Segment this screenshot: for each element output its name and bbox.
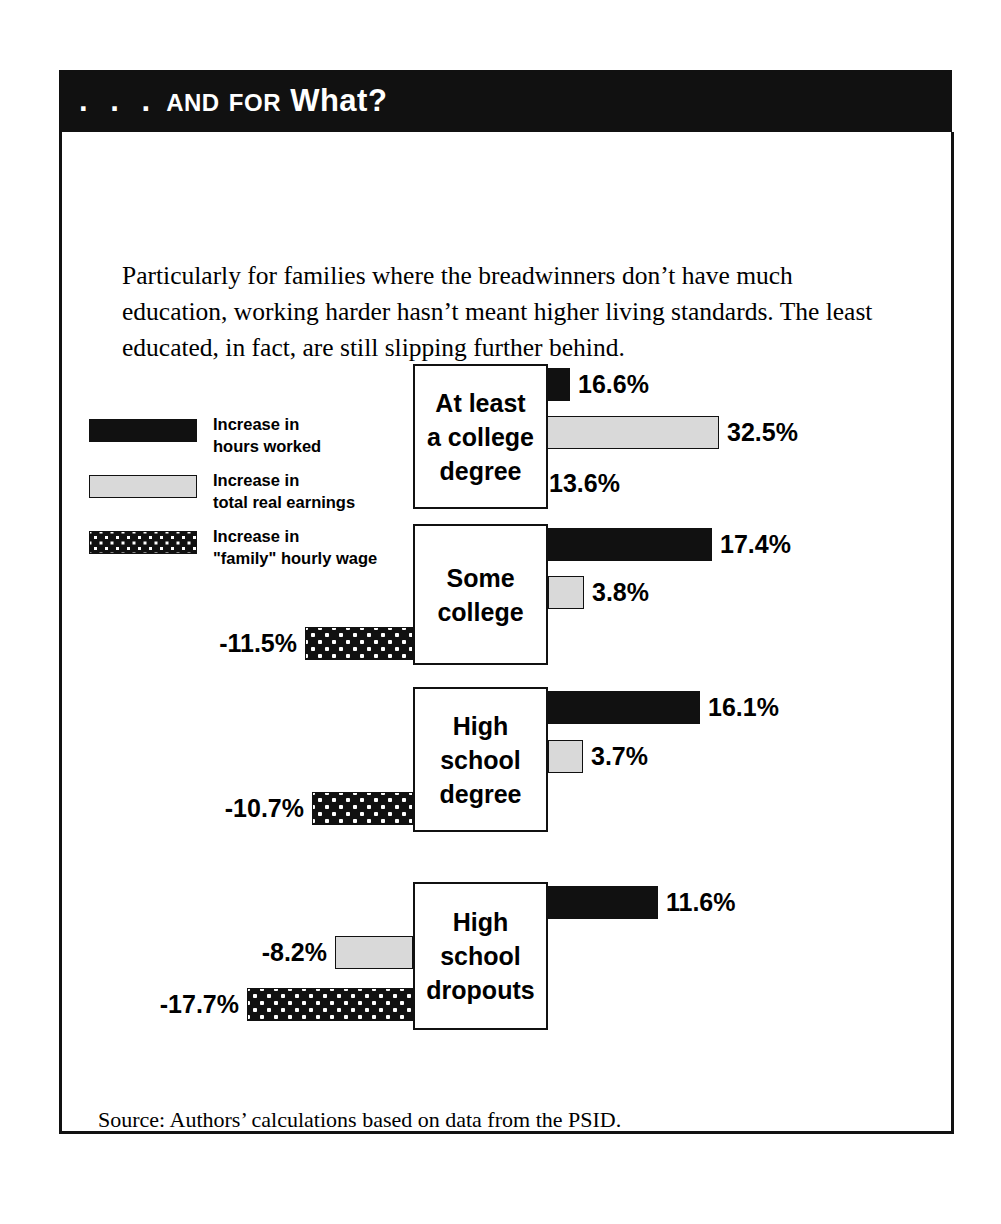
bar-value-earnings: 32.5% xyxy=(727,416,798,449)
figure-panel: . . . AND FOR What? Particularly for fam… xyxy=(59,70,952,1135)
bar-value-hours: 16.1% xyxy=(708,691,779,724)
bar-value-hours: 11.6% xyxy=(666,886,736,919)
title-what: What? xyxy=(290,83,387,118)
bar-earnings xyxy=(335,936,413,969)
bar-wage xyxy=(312,792,413,825)
bar-earnings xyxy=(548,576,584,609)
bar-earnings xyxy=(548,740,583,773)
bar-value-earnings: 3.8% xyxy=(592,576,649,609)
bar-chart: Increase in hours worked Increase in tot… xyxy=(62,132,951,1131)
bar-hours xyxy=(548,528,712,561)
category-label-high-school-degree: High school degree xyxy=(413,687,548,832)
figure-body: Particularly for families where the brea… xyxy=(59,132,954,1134)
bar-group-college-degree: 16.6% 32.5% 13.6% At least a college deg… xyxy=(62,364,951,522)
title-for: FOR xyxy=(229,89,281,116)
category-label-some-college: Some college xyxy=(413,524,548,665)
source-note: Source: Authors’ calculations based on d… xyxy=(98,1107,621,1133)
figure-header-bar: . . . AND FOR What? xyxy=(59,70,952,132)
bar-value-hours: 17.4% xyxy=(720,528,791,561)
bar-wage xyxy=(247,988,413,1021)
bar-hours xyxy=(548,886,658,919)
figure-title: . . . AND FOR What? xyxy=(79,83,387,119)
bar-value-hours: 16.6% xyxy=(578,368,649,401)
bar-group-high-school-dropouts: 11.6% -8.2% -17.7% High school dropouts xyxy=(62,882,951,1042)
category-label-high-school-dropouts: High school dropouts xyxy=(413,882,548,1030)
bar-group-high-school-degree: 16.1% 3.7% -10.7% High school degree xyxy=(62,687,951,847)
bar-group-some-college: 17.4% 3.8% -11.5% Some college xyxy=(62,524,951,682)
bar-value-wage: 13.6% xyxy=(549,467,620,500)
bar-hours xyxy=(548,691,700,724)
bar-value-earnings: 3.7% xyxy=(591,740,648,773)
category-label-college-degree: At least a college degree xyxy=(413,364,548,509)
title-dots: . . . xyxy=(79,83,157,118)
bar-value-wage: -11.5% xyxy=(175,627,297,660)
bar-value-earnings: -8.2% xyxy=(212,936,327,969)
bar-value-wage: -17.7% xyxy=(110,988,239,1021)
bar-value-wage: -10.7% xyxy=(180,792,304,825)
title-and: AND xyxy=(166,89,220,116)
bar-wage xyxy=(305,627,413,660)
